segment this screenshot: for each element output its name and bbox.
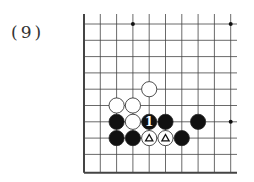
star-point	[131, 22, 135, 26]
move-number: 1	[145, 115, 153, 129]
white-stone	[125, 114, 140, 129]
go-board: 1	[0, 0, 254, 182]
black-stone	[191, 114, 206, 129]
white-stone	[125, 98, 140, 113]
white-stone	[142, 131, 157, 146]
white-stone	[158, 131, 173, 146]
star-point	[229, 22, 233, 26]
white-stone	[109, 98, 124, 113]
star-point	[229, 120, 233, 124]
white-stone	[142, 82, 157, 97]
black-stone	[174, 131, 189, 146]
black-stone	[125, 131, 140, 146]
black-stone	[109, 131, 124, 146]
black-stone	[109, 114, 124, 129]
black-stone	[158, 114, 173, 129]
